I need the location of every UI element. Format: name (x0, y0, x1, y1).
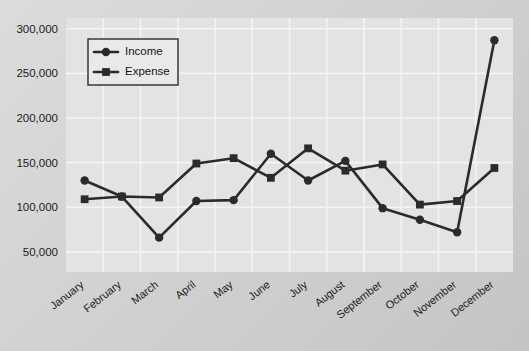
x-tick-label: February (81, 278, 123, 315)
data-point-marker[interactable] (416, 201, 424, 209)
data-point-marker[interactable] (341, 157, 349, 165)
x-axis-labels: JanuaryFebruaryMarchAprilMayJuneJulyAugu… (48, 278, 496, 321)
x-tick-label: April (173, 278, 198, 301)
x-tick-label: May (211, 278, 235, 301)
data-point-marker[interactable] (80, 176, 88, 184)
x-tick-label: June (246, 278, 272, 302)
data-point-marker[interactable] (192, 197, 200, 205)
line-chart: 50,000100,000150,000200,000250,000300,00… (0, 0, 529, 351)
data-point-marker[interactable] (230, 154, 238, 162)
data-point-marker[interactable] (267, 150, 275, 158)
y-tick-label: 200,000 (16, 112, 58, 124)
x-tick-label: July (287, 278, 310, 300)
y-axis-labels: 50,000100,000150,000200,000250,000300,00… (16, 23, 58, 258)
data-point-marker[interactable] (155, 194, 163, 202)
data-point-marker[interactable] (416, 216, 424, 224)
legend-marker-square-icon (102, 68, 110, 76)
legend-label: Income (125, 45, 163, 57)
data-point-marker[interactable] (192, 160, 200, 168)
data-point-marker[interactable] (453, 197, 461, 205)
data-point-marker[interactable] (267, 174, 275, 182)
data-point-marker[interactable] (490, 164, 498, 172)
chart-container: 50,000100,000150,000200,000250,000300,00… (0, 0, 529, 351)
y-tick-label: 250,000 (16, 67, 58, 79)
data-point-marker[interactable] (453, 228, 461, 236)
y-tick-label: 50,000 (23, 246, 58, 258)
y-tick-label: 300,000 (16, 23, 58, 35)
data-point-marker[interactable] (490, 36, 498, 44)
x-tick-label: March (129, 278, 160, 306)
data-point-marker[interactable] (118, 193, 126, 201)
data-point-marker[interactable] (304, 176, 312, 184)
data-point-marker[interactable] (229, 196, 237, 204)
data-point-marker[interactable] (379, 161, 387, 169)
data-point-marker[interactable] (341, 167, 349, 175)
x-tick-label: August (312, 278, 346, 309)
data-point-marker[interactable] (378, 204, 386, 212)
data-point-marker[interactable] (304, 144, 312, 152)
data-point-marker[interactable] (155, 233, 163, 241)
legend-label: Expense (125, 65, 170, 77)
legend-marker-circle-icon (102, 48, 110, 56)
y-tick-label: 150,000 (16, 157, 58, 169)
x-tick-label: January (48, 278, 87, 312)
data-point-marker[interactable] (81, 195, 89, 203)
legend: IncomeExpense (88, 39, 178, 85)
y-tick-label: 100,000 (16, 201, 58, 213)
